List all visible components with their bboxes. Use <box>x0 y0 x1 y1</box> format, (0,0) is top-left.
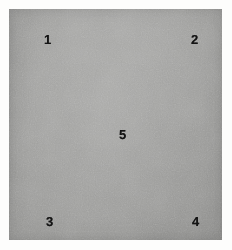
gray-specimen-panel: 1 2 5 3 4 <box>9 9 222 240</box>
figure-canvas: 1 2 5 3 4 <box>0 0 232 250</box>
position-marker-1: 1 <box>44 33 51 46</box>
position-marker-4: 4 <box>192 215 199 228</box>
position-marker-3: 3 <box>46 215 53 228</box>
position-marker-5: 5 <box>119 128 126 141</box>
position-marker-2: 2 <box>191 33 198 46</box>
